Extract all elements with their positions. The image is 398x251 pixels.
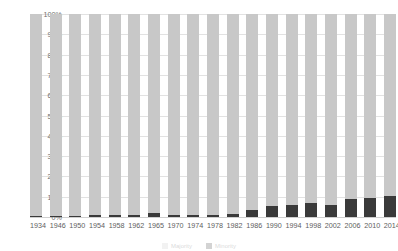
bar-column bbox=[227, 14, 239, 217]
bar-segment-minor bbox=[50, 216, 62, 217]
x-axis-tick-label: 1950 bbox=[69, 219, 81, 233]
bar-segment-minor bbox=[305, 203, 317, 217]
x-axis-tick-label: 2006 bbox=[345, 219, 357, 233]
bar-segment-major bbox=[30, 14, 42, 216]
bar-segment-major bbox=[50, 14, 62, 216]
bar-column bbox=[148, 14, 160, 217]
bar-segment-minor bbox=[187, 215, 199, 217]
bar-segment-major bbox=[227, 14, 239, 214]
bar-segment-major bbox=[128, 14, 140, 215]
x-axis-tick-label: 1990 bbox=[266, 219, 278, 233]
bar-column bbox=[345, 14, 357, 217]
bar-segment-major bbox=[207, 14, 219, 215]
bar-segment-minor bbox=[207, 215, 219, 217]
x-axis-tick-label: 1954 bbox=[89, 219, 101, 233]
bar-series-group bbox=[30, 14, 396, 217]
x-axis-tick-label: 1998 bbox=[305, 219, 317, 233]
legend-swatch bbox=[206, 243, 212, 249]
bar-column bbox=[364, 14, 376, 217]
x-axis-tick-label: 1994 bbox=[286, 219, 298, 233]
bar-segment-major bbox=[305, 14, 317, 203]
x-axis-tick-label: 1958 bbox=[109, 219, 121, 233]
legend-label: Minority bbox=[215, 243, 236, 249]
x-axis-tick-label: 2002 bbox=[325, 219, 337, 233]
bar-column bbox=[69, 14, 81, 217]
bar-segment-minor bbox=[168, 215, 180, 217]
bar-segment-major bbox=[246, 14, 258, 210]
stacked-bar-chart: 0%10%20%30%40%50%60%70%80%90%100% 193419… bbox=[0, 0, 398, 251]
bar-column bbox=[109, 14, 121, 217]
bar-segment-minor bbox=[364, 198, 376, 217]
plot-area: 0%10%20%30%40%50%60%70%80%90%100% bbox=[30, 14, 396, 217]
bar-segment-major bbox=[109, 14, 121, 215]
bar-segment-major bbox=[364, 14, 376, 198]
bar-column bbox=[286, 14, 298, 217]
bar-segment-major bbox=[286, 14, 298, 205]
bar-segment-major bbox=[168, 14, 180, 215]
bar-segment-major bbox=[325, 14, 337, 205]
x-axis-tick-label: 2010 bbox=[364, 219, 376, 233]
bar-column bbox=[89, 14, 101, 217]
chart-legend: MajorityMinority bbox=[0, 241, 398, 251]
x-axis-tick-label: 1962 bbox=[128, 219, 140, 233]
bar-segment-major bbox=[345, 14, 357, 199]
bar-column bbox=[305, 14, 317, 217]
bar-column bbox=[266, 14, 278, 217]
bar-segment-minor bbox=[246, 210, 258, 217]
bar-segment-major bbox=[148, 14, 160, 213]
x-axis-tick-label: 1934 bbox=[30, 219, 42, 233]
bar-column bbox=[384, 14, 396, 217]
legend-swatch bbox=[162, 243, 168, 249]
legend-item: Majority bbox=[162, 243, 192, 249]
bar-column bbox=[207, 14, 219, 217]
gridline bbox=[30, 217, 396, 218]
bar-segment-minor bbox=[286, 205, 298, 217]
x-axis-tick-label: 1986 bbox=[246, 219, 258, 233]
bar-segment-minor bbox=[325, 205, 337, 217]
bar-column bbox=[30, 14, 42, 217]
bar-segment-major bbox=[384, 14, 396, 196]
bar-column bbox=[187, 14, 199, 217]
legend-label: Majority bbox=[171, 243, 192, 249]
bar-segment-minor bbox=[148, 213, 160, 217]
x-axis-tick-label: 1946 bbox=[50, 219, 62, 233]
x-axis-tick-label: 1974 bbox=[187, 219, 199, 233]
bar-segment-minor bbox=[345, 199, 357, 217]
x-axis-labels: 1934194619501954195819621965197019741978… bbox=[30, 219, 396, 233]
bar-segment-minor bbox=[384, 196, 396, 217]
bar-column bbox=[325, 14, 337, 217]
bar-segment-minor bbox=[128, 215, 140, 217]
bar-segment-major bbox=[266, 14, 278, 206]
bar-segment-minor bbox=[227, 214, 239, 217]
x-axis-tick-label: 1965 bbox=[148, 219, 160, 233]
bar-segment-major bbox=[89, 14, 101, 215]
x-axis-tick-label: 1970 bbox=[168, 219, 180, 233]
bar-column bbox=[168, 14, 180, 217]
legend-item: Minority bbox=[206, 243, 236, 249]
bar-segment-minor bbox=[69, 216, 81, 217]
x-axis-tick-label: 2014 bbox=[384, 219, 396, 233]
bar-segment-minor bbox=[89, 215, 101, 217]
bar-column bbox=[50, 14, 62, 217]
x-axis-tick-label: 1982 bbox=[227, 219, 239, 233]
bar-segment-minor bbox=[266, 206, 278, 217]
bar-segment-minor bbox=[30, 216, 42, 217]
bar-segment-minor bbox=[109, 215, 121, 217]
bar-column bbox=[246, 14, 258, 217]
bar-segment-major bbox=[187, 14, 199, 215]
bar-segment-major bbox=[69, 14, 81, 216]
bar-column bbox=[128, 14, 140, 217]
x-axis-tick-label: 1978 bbox=[207, 219, 219, 233]
